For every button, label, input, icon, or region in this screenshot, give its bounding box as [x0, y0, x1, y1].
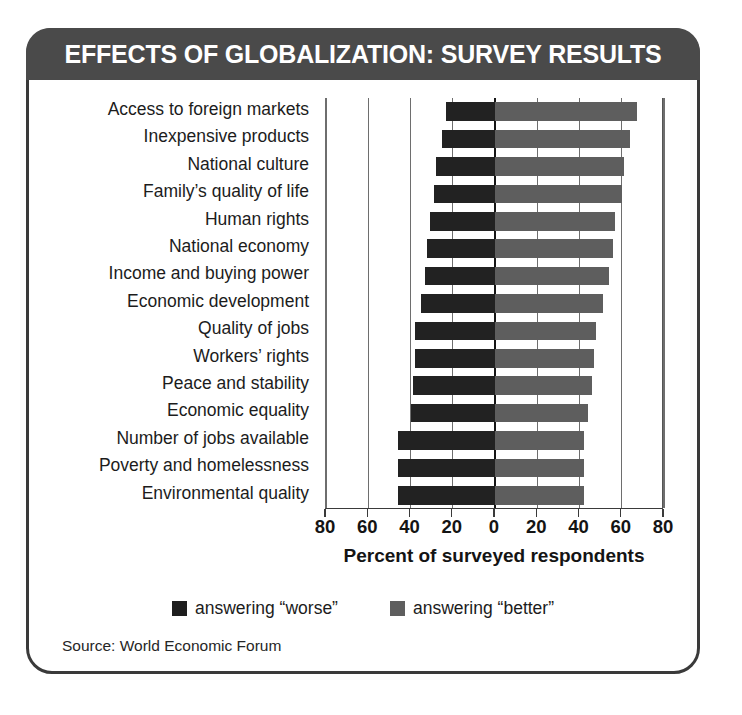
bar-segment-worse — [427, 239, 495, 258]
bar-segment-worse — [434, 185, 495, 204]
gridline — [663, 98, 664, 508]
title-banner: EFFECTS OF GLOBALIZATION: SURVEY RESULTS — [26, 28, 700, 80]
bar-segment-better — [495, 157, 624, 176]
bar-segment-better — [495, 349, 594, 368]
bar-segment-better — [495, 212, 615, 231]
bar-segment-worse — [425, 267, 495, 286]
page-title: EFFECTS OF GLOBALIZATION: SURVEY RESULTS — [64, 40, 661, 69]
x-axis-ticklabels: 80604020020406080 — [325, 516, 663, 542]
bar-segment-better — [495, 130, 630, 149]
x-ticklabel: 20 — [526, 516, 547, 538]
category-label: Family’s quality of life — [143, 178, 309, 205]
category-label: Economic development — [127, 288, 309, 315]
category-label: Workers’ rights — [193, 343, 309, 370]
bar-row — [326, 290, 662, 317]
bar-row — [326, 262, 662, 289]
bar-segment-worse — [398, 431, 495, 450]
x-ticklabel: 0 — [489, 516, 499, 538]
bar-segment-better — [495, 486, 584, 505]
bar-segment-worse — [398, 486, 495, 505]
bar-row — [326, 345, 662, 372]
category-label: Quality of jobs — [198, 315, 309, 342]
bar-segment-better — [495, 431, 584, 450]
bar-segment-worse — [436, 157, 495, 176]
legend-item: answering “better” — [390, 598, 554, 619]
x-ticklabel: 20 — [441, 516, 462, 538]
category-label: Number of jobs available — [116, 425, 309, 452]
category-label: National culture — [187, 151, 309, 178]
bar-segment-worse — [430, 212, 495, 231]
x-ticklabel: 60 — [357, 516, 378, 538]
bar-segment-worse — [411, 404, 496, 423]
bar-row — [326, 208, 662, 235]
bar-segment-worse — [398, 459, 495, 478]
category-label: Environmental quality — [142, 480, 309, 507]
bar-segment-worse — [413, 376, 495, 395]
bar-segment-better — [495, 102, 637, 121]
category-label: Poverty and homelessness — [99, 452, 309, 479]
legend-swatch-icon — [390, 601, 405, 616]
bar-segment-better — [495, 376, 592, 395]
x-ticklabel: 40 — [568, 516, 589, 538]
x-ticklabel: 80 — [315, 516, 336, 538]
bar-segment-worse — [442, 130, 495, 149]
source-note: Source: World Economic Forum — [62, 637, 281, 655]
category-label: Access to foreign markets — [108, 96, 309, 123]
category-axis-labels: Access to foreign marketsInexpensive pro… — [48, 96, 317, 511]
legend-label: answering “better” — [413, 598, 554, 619]
bar-row — [326, 153, 662, 180]
bar-row — [326, 427, 662, 454]
bar-row — [326, 454, 662, 481]
x-axis-title: Percent of surveyed respondents — [325, 545, 663, 567]
bar-row — [326, 317, 662, 344]
bar-segment-better — [495, 267, 609, 286]
category-label: Economic equality — [167, 397, 309, 424]
chart-axes — [325, 98, 663, 509]
legend-item: answering “worse” — [172, 598, 338, 619]
figure-page: EFFECTS OF GLOBALIZATION: SURVEY RESULTS… — [0, 0, 742, 715]
chart-plot-area: Access to foreign marketsInexpensive pro… — [48, 96, 678, 516]
bar-row — [326, 98, 662, 125]
category-label: Peace and stability — [162, 370, 309, 397]
bar-segment-better — [495, 294, 603, 313]
category-label: Inexpensive products — [144, 123, 309, 150]
chart-legend: answering “worse”answering “better” — [48, 598, 678, 619]
x-ticklabel: 40 — [399, 516, 420, 538]
bar-row — [326, 482, 662, 509]
category-label: Income and buying power — [109, 260, 309, 287]
legend-label: answering “worse” — [195, 598, 338, 619]
category-label: Human rights — [205, 206, 309, 233]
bar-row — [326, 180, 662, 207]
legend-swatch-icon — [172, 601, 187, 616]
bar-row — [326, 235, 662, 262]
bar-segment-better — [495, 459, 584, 478]
bar-segment-better — [495, 404, 588, 423]
category-label: National economy — [169, 233, 309, 260]
bar-segment-better — [495, 322, 596, 341]
bar-row — [326, 372, 662, 399]
bar-row — [326, 399, 662, 426]
x-ticklabel: 80 — [653, 516, 674, 538]
bar-segment-worse — [415, 349, 495, 368]
bar-segment-better — [495, 185, 622, 204]
bar-segment-worse — [415, 322, 495, 341]
bar-segment-worse — [421, 294, 495, 313]
bar-segment-worse — [446, 102, 495, 121]
x-ticklabel: 60 — [610, 516, 631, 538]
bar-row — [326, 125, 662, 152]
bar-segment-better — [495, 239, 613, 258]
